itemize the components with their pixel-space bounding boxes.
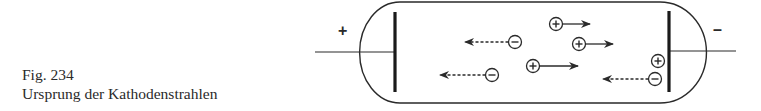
positive-ion-3 [550, 18, 591, 31]
cathode-sign: – [713, 21, 722, 38]
positive-ion-4 [573, 38, 614, 51]
tube-outline [360, 2, 707, 103]
electron-1 [465, 36, 522, 49]
positive-ion-5 [527, 60, 579, 73]
discharge-tube-diagram: + – [0, 0, 761, 111]
electron-2 [440, 69, 499, 82]
electron-7 [603, 73, 662, 86]
anode-sign: + [338, 22, 347, 39]
positive-ion-6 [652, 55, 665, 68]
particles-layer [440, 18, 665, 86]
